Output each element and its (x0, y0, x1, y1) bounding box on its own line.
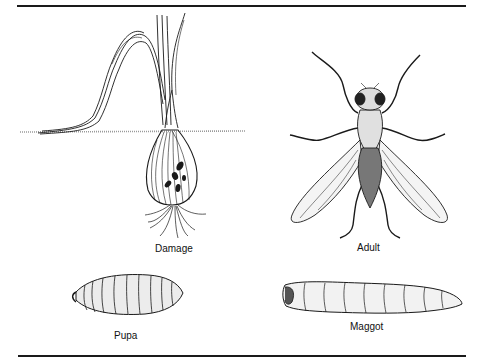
right-eye (375, 93, 385, 105)
label-damage: Damage (155, 244, 193, 254)
maggot-body (283, 282, 462, 313)
onion-plant-illustration (20, 13, 245, 238)
right-wing (378, 140, 447, 223)
onion-roots (145, 205, 206, 238)
label-pupa: Pupa (114, 331, 137, 341)
maggot-illustration (283, 282, 462, 313)
fly-abdomen (358, 148, 381, 208)
left-wing (291, 140, 362, 223)
label-adult: Adult (357, 243, 380, 253)
label-maggot: Maggot (350, 322, 383, 332)
fly-thorax (358, 110, 383, 150)
illustration-canvas (0, 0, 489, 359)
left-eye (355, 93, 365, 105)
onion-bulb (146, 130, 197, 205)
pupa-illustration (73, 275, 183, 315)
adult-fly-illustration (290, 52, 447, 238)
